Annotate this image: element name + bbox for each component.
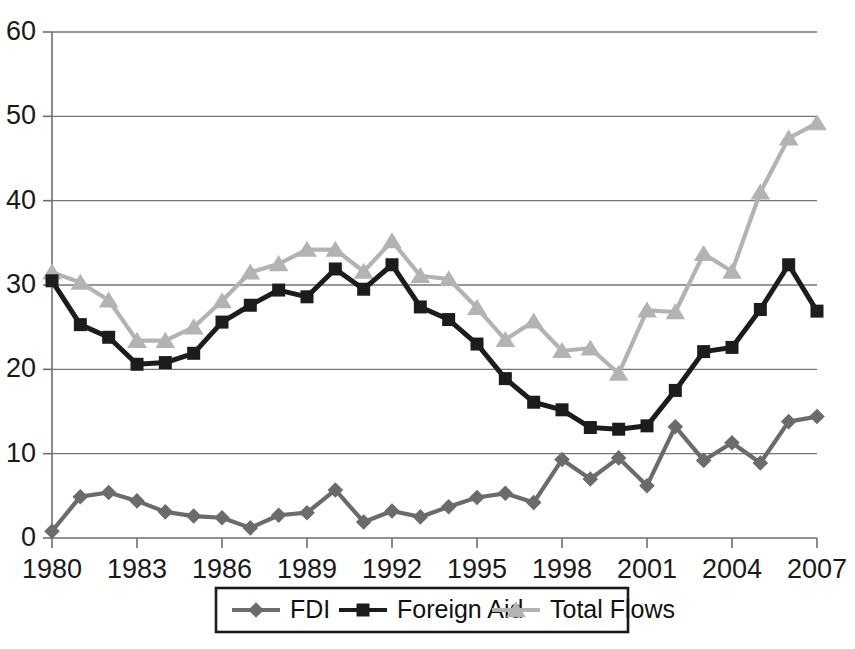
x-tick-label: 1995 bbox=[447, 554, 507, 584]
y-tick-label: 30 bbox=[6, 269, 36, 299]
data-point-marker bbox=[809, 409, 825, 425]
data-point-marker bbox=[382, 232, 402, 248]
data-point-marker bbox=[694, 245, 714, 261]
data-point-marker bbox=[413, 509, 429, 525]
data-point-marker bbox=[669, 384, 682, 397]
series-fdi bbox=[44, 409, 825, 539]
data-point-marker bbox=[386, 258, 399, 271]
x-tick-label: 2007 bbox=[787, 554, 847, 584]
x-tick-label: 2004 bbox=[702, 554, 762, 584]
data-point-marker bbox=[214, 510, 230, 526]
data-point-marker bbox=[243, 520, 259, 536]
data-point-marker bbox=[357, 283, 370, 296]
data-point-marker bbox=[102, 331, 115, 344]
data-point-marker bbox=[442, 313, 455, 326]
data-point-marker bbox=[159, 356, 172, 369]
data-point-marker bbox=[750, 183, 770, 199]
data-point-marker bbox=[414, 300, 427, 313]
data-point-marker bbox=[271, 507, 287, 523]
data-point-marker bbox=[471, 338, 484, 351]
data-point-marker bbox=[74, 318, 87, 331]
legend-label: Total Flows bbox=[550, 595, 675, 623]
legend-marker-swatch bbox=[357, 604, 370, 617]
data-point-marker bbox=[779, 129, 799, 145]
data-point-marker bbox=[556, 403, 569, 416]
data-point-marker bbox=[441, 499, 457, 515]
x-axis-tick-labels: 1980198319861989199219951998200120042007 bbox=[22, 554, 847, 584]
legend-label: FDI bbox=[290, 595, 330, 623]
data-point-marker bbox=[101, 485, 117, 501]
y-axis-tick-labels: 0102030405060 bbox=[6, 16, 36, 552]
y-tick-label: 0 bbox=[21, 522, 36, 552]
data-point-marker bbox=[754, 303, 767, 316]
data-point-marker bbox=[269, 255, 289, 271]
data-point-marker bbox=[272, 284, 285, 297]
data-point-marker bbox=[584, 421, 597, 434]
data-point-marker bbox=[726, 341, 739, 354]
series-total-flows bbox=[42, 114, 827, 380]
data-point-marker bbox=[612, 423, 625, 436]
data-point-marker bbox=[244, 299, 257, 312]
data-point-marker bbox=[186, 508, 202, 524]
y-tick-label: 10 bbox=[6, 438, 36, 468]
data-point-marker bbox=[187, 347, 200, 360]
data-point-marker bbox=[131, 358, 144, 371]
x-tick-label: 1998 bbox=[532, 554, 592, 584]
x-tick-label: 1986 bbox=[192, 554, 252, 584]
x-tick-label: 1983 bbox=[107, 554, 167, 584]
x-tick-label: 1989 bbox=[277, 554, 337, 584]
data-point-marker bbox=[811, 305, 824, 318]
y-tick-label: 60 bbox=[6, 16, 36, 46]
data-point-marker bbox=[129, 493, 145, 509]
gridlines-group bbox=[52, 32, 817, 454]
x-tick-label: 1980 bbox=[22, 554, 82, 584]
data-point-marker bbox=[469, 490, 485, 506]
data-point-marker bbox=[499, 372, 512, 385]
data-point-marker bbox=[46, 274, 59, 287]
data-point-marker bbox=[384, 503, 400, 519]
data-point-marker bbox=[697, 345, 710, 358]
data-point-marker bbox=[524, 312, 544, 328]
data-point-marker bbox=[301, 290, 314, 303]
data-point-marker bbox=[216, 316, 229, 329]
y-tick-label: 50 bbox=[6, 100, 36, 130]
x-tickmarks-group bbox=[52, 538, 817, 548]
data-series-group bbox=[42, 114, 827, 539]
data-point-marker bbox=[158, 504, 174, 520]
data-point-marker bbox=[329, 262, 342, 275]
data-point-marker bbox=[527, 396, 540, 409]
data-point-marker bbox=[782, 258, 795, 271]
x-tick-label: 1992 bbox=[362, 554, 422, 584]
chart-canvas: 0102030405060 19801983198619891992199519… bbox=[0, 0, 855, 649]
data-point-marker bbox=[641, 419, 654, 432]
y-tick-label: 20 bbox=[6, 353, 36, 383]
y-tick-label: 40 bbox=[6, 185, 36, 215]
line-chart: 0102030405060 19801983198619891992199519… bbox=[0, 0, 855, 649]
x-tick-label: 2001 bbox=[617, 554, 677, 584]
data-point-marker bbox=[498, 486, 514, 502]
chart-legend: FDIForeign AidTotal Flows bbox=[216, 588, 675, 632]
